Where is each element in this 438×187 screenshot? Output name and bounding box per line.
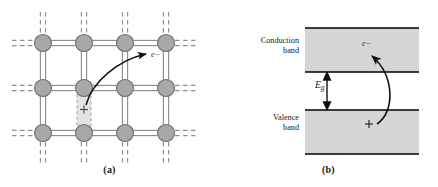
panel-band-diagram: Conduction band Valence band Eg e− (b) bbox=[219, 0, 438, 187]
panel-lattice: e− (a) bbox=[0, 0, 219, 187]
band-gap-label: Eg bbox=[315, 79, 325, 92]
electron-label-band: e− bbox=[362, 39, 371, 48]
conduction-band-label: Conduction band bbox=[231, 36, 299, 55]
electron-escape-arrow bbox=[86, 54, 146, 105]
conduction-band bbox=[305, 28, 419, 72]
lattice-diagram bbox=[0, 0, 219, 187]
valence-band-label: Valence band bbox=[231, 113, 299, 132]
panel-b-caption: (b) bbox=[219, 164, 438, 175]
valence-band bbox=[305, 110, 419, 154]
panel-a-caption: (a) bbox=[0, 164, 219, 175]
electron-label-lattice: e− bbox=[151, 50, 160, 59]
semiconductor-figure: e− (a) bbox=[0, 0, 438, 187]
covalent-bonds bbox=[40, 40, 168, 135]
band-diagram bbox=[219, 0, 438, 187]
band-gap-subscript: g bbox=[321, 84, 325, 92]
